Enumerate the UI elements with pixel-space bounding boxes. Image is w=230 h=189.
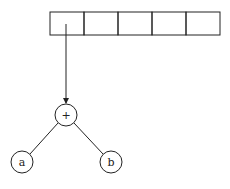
array-cell-0 <box>50 12 84 35</box>
edge-root-left <box>30 123 58 154</box>
node-left: a <box>11 151 33 173</box>
node-left-label: a <box>19 156 26 169</box>
node-root: + <box>55 104 77 126</box>
array-cell-4 <box>186 12 220 35</box>
node-right-label: b <box>107 156 114 169</box>
array-cell-2 <box>118 12 152 35</box>
array <box>50 12 220 35</box>
edge-root-right <box>74 123 103 154</box>
node-root-label: + <box>61 109 70 122</box>
array-cell-3 <box>152 12 186 35</box>
array-cell-1 <box>84 12 118 35</box>
node-right: b <box>100 151 122 173</box>
expression-tree-diagram: + a b <box>0 0 230 189</box>
